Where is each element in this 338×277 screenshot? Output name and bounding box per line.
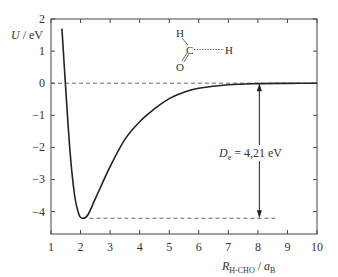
y-tick-label: −4 [32, 205, 45, 219]
atom-h1: H [176, 27, 184, 39]
x-tick-label: 8 [255, 240, 261, 254]
x-tick-label: 5 [166, 240, 172, 254]
molecule-sketch: H C O H [176, 27, 233, 73]
x-tick-labels: 12345678910 [48, 240, 323, 254]
atom-c: C [186, 44, 193, 56]
y-tick-label: −1 [32, 108, 45, 122]
plot-frame [51, 19, 317, 234]
y-axis-label: U / eV [11, 28, 43, 42]
x-tick-label: 9 [284, 240, 290, 254]
y-tick-label: 2 [39, 12, 45, 26]
bond-c-o-1 [182, 53, 187, 61]
x-tick-label: 4 [137, 240, 143, 254]
potential-curve [62, 29, 317, 219]
x-tick-label: 6 [196, 240, 202, 254]
x-tick-label: 1 [48, 240, 54, 254]
y-tick-labels: 210−1−2−3−4 [32, 12, 45, 219]
y-ticks [51, 19, 317, 212]
potential-energy-chart: 12345678910 210−1−2−3−4 U / eV RH-CHO / … [0, 0, 338, 277]
y-tick-label: 1 [39, 44, 45, 58]
x-tick-label: 7 [225, 240, 231, 254]
x-tick-label: 3 [107, 240, 113, 254]
y-tick-label: −3 [32, 172, 45, 186]
svg-text:De = 4,21 eV: De = 4,21 eV [218, 146, 282, 162]
atom-h2: H [225, 44, 233, 56]
atom-o: O [176, 61, 184, 73]
x-tick-label: 10 [311, 240, 323, 254]
x-tick-label: 2 [78, 240, 84, 254]
x-ticks [51, 19, 317, 234]
y-tick-label: −2 [32, 140, 45, 154]
y-tick-label: 0 [39, 76, 45, 90]
bond-h-c [182, 38, 188, 45]
x-axis-label: RH-CHO / aB [221, 259, 275, 275]
de-annotation: De = 4,21 eV [216, 145, 302, 162]
